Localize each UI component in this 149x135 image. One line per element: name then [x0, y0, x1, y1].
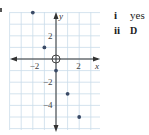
data-point [66, 92, 70, 96]
x-axis-label: x [94, 61, 99, 71]
answer-number: ii [114, 24, 130, 36]
answers-panel: i yes ii D [114, 9, 145, 39]
x-tick-label: 2 [76, 61, 81, 71]
y-tick-label: −4 [43, 100, 53, 110]
x-axis-left-arrow-icon [10, 57, 17, 62]
x-tick-label: −2 [30, 61, 40, 71]
scatter-plot: xy−222−2−4 [0, 0, 110, 135]
y-axis-label: y [58, 11, 63, 21]
answer-text: D [130, 25, 138, 36]
data-point [54, 69, 58, 73]
answer-i: i yes [114, 9, 145, 24]
y-tick-label: −2 [43, 77, 53, 87]
answer-number: i [114, 9, 130, 21]
y-axis-up-arrow-icon [54, 12, 59, 19]
y-tick-label: 2 [48, 31, 53, 41]
data-point [31, 11, 35, 15]
answer-text: yes [130, 9, 145, 21]
data-point [77, 115, 81, 119]
data-point [43, 46, 47, 50]
answer-ii: ii D [114, 24, 145, 39]
